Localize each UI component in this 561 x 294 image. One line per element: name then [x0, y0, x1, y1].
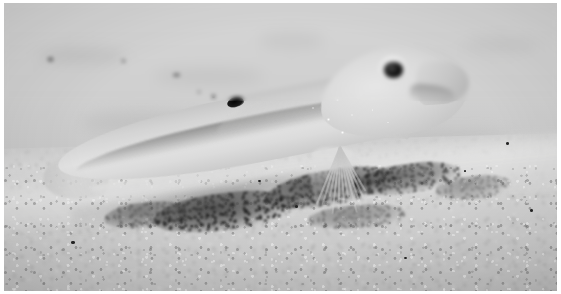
sand-fleck — [295, 205, 298, 207]
fish-pupil — [384, 62, 402, 79]
pelvic-fin — [314, 145, 369, 220]
fish-speckle — [387, 122, 389, 124]
sand-fleck — [173, 74, 180, 76]
goby-fish — [4, 3, 557, 291]
sand-fleck — [404, 257, 407, 259]
sand-fleck — [464, 170, 467, 172]
sand-fleck — [212, 95, 215, 97]
underwater-photograph — [4, 3, 557, 291]
sand-fleck — [122, 60, 124, 62]
photo-frame — [0, 0, 561, 294]
fish-speckle — [327, 118, 330, 121]
sand-fleck — [48, 58, 54, 61]
fish-speckle — [341, 131, 343, 133]
fish-speckle — [312, 107, 314, 109]
fish-speckle — [336, 99, 338, 101]
sand-fleck — [198, 91, 200, 93]
sand-fleck — [71, 241, 74, 244]
sand-fleck — [530, 209, 533, 211]
sand-fleck — [258, 180, 260, 182]
